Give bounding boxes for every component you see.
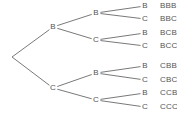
outcome-bbb: BBB	[160, 2, 177, 10]
edge-l1-to-l2-0	[57, 14, 91, 25]
outcome-ccb: CCB	[160, 89, 177, 97]
edge-l2-to-l3-1	[100, 14, 140, 19]
edge-l2-to-l3-3	[100, 41, 140, 46]
edge-l1-to-l2-2	[57, 74, 92, 86]
node-l3-5: C	[142, 76, 148, 84]
edge-l2-to-l3-2	[100, 34, 140, 40]
node-l3-1: C	[142, 15, 148, 23]
node-l1-b: B	[50, 23, 55, 31]
node-l2-1: C	[93, 36, 99, 44]
node-l3-4: B	[142, 62, 147, 70]
outcome-cbc: CBC	[160, 76, 177, 84]
edge-root-to-l1-0	[12, 30, 49, 57]
edge-l2-to-l3-0	[100, 7, 140, 13]
tree-diagram: BCBCBCBCBCBCBCBBBBBCBCBBCCCBBCBCCCBCCC	[0, 0, 177, 113]
node-l1-c: C	[50, 84, 56, 92]
node-l2-0: B	[93, 9, 98, 17]
edge-l2-to-l3-5	[100, 74, 140, 80]
outcome-bcc: BCC	[160, 42, 177, 50]
node-l3-0: B	[142, 2, 147, 10]
node-l2-2: B	[93, 69, 98, 77]
edge-l2-to-l3-6	[100, 94, 140, 100]
outcome-ccc: CCC	[160, 103, 177, 111]
node-l3-2: B	[142, 29, 147, 37]
edge-l1-to-l2-1	[57, 28, 91, 38]
outcome-bcb: BCB	[160, 29, 177, 37]
node-l3-7: C	[142, 103, 148, 111]
edge-root-to-l1-1	[12, 57, 49, 85]
edge-l2-to-l3-4	[100, 67, 140, 73]
node-l2-3: C	[93, 96, 99, 104]
node-l3-3: C	[142, 42, 148, 50]
node-l3-6: B	[142, 89, 147, 97]
edge-l1-to-l2-3	[57, 89, 91, 99]
edge-l2-to-l3-7	[100, 101, 140, 107]
tree-edges	[0, 0, 177, 113]
outcome-cbb: CBB	[160, 62, 177, 70]
outcome-bbc: BBC	[160, 15, 177, 23]
